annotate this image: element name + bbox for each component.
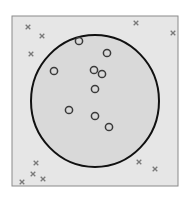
scatter-diagram	[0, 0, 188, 199]
decision-boundary-circle	[31, 35, 159, 167]
